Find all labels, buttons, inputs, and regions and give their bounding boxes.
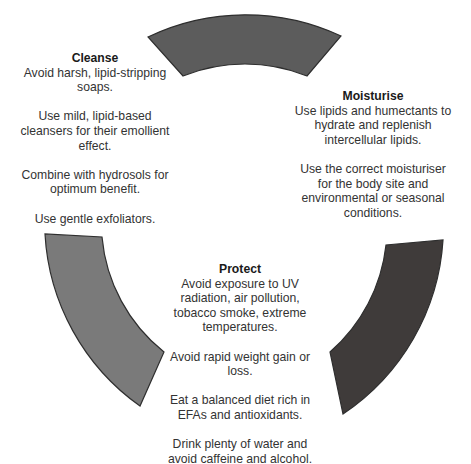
arc-segment-top bbox=[148, 15, 341, 76]
cleanse-section: Cleanse Avoid harsh, lipid-stripping soa… bbox=[20, 51, 170, 226]
arc-segment-left bbox=[45, 234, 164, 406]
moisturise-title: Moisturise bbox=[293, 89, 453, 104]
cleanse-paragraph: Combine with hydrosols for optimum benef… bbox=[20, 168, 170, 197]
cleanse-paragraph: Use mild, lipid-based cleansers for thei… bbox=[20, 109, 170, 153]
protect-paragraph: Drink plenty of water and avoid caffeine… bbox=[165, 437, 315, 464]
arc-segment-right bbox=[330, 240, 443, 414]
protect-paragraph: Avoid exposure to UV radiation, air poll… bbox=[165, 277, 315, 335]
protect-paragraph: Avoid rapid weight gain or loss. bbox=[165, 350, 315, 379]
cleanse-title: Cleanse bbox=[20, 51, 170, 66]
moisturise-paragraph: Use lipids and humectants to hydrate and… bbox=[293, 104, 453, 148]
protect-title: Protect bbox=[165, 262, 315, 277]
moisturise-paragraph: Use the correct moisturiser for the body… bbox=[293, 162, 453, 220]
cleanse-paragraph: Avoid harsh, lipid-stripping soaps. bbox=[20, 66, 170, 95]
protect-paragraph: Eat a balanced diet rich in EFAs and ant… bbox=[165, 393, 315, 422]
protect-section: Protect Avoid exposure to UV radiation, … bbox=[165, 262, 315, 464]
moisturise-section: Moisturise Use lipids and humectants to … bbox=[293, 89, 453, 220]
cleanse-paragraph: Use gentle exfoliators. bbox=[20, 212, 170, 227]
